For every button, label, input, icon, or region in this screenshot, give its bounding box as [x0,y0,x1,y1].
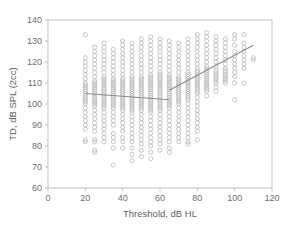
data-point-marker [139,121,143,125]
x-tick-label: 100 [227,193,242,203]
data-point-marker [121,73,125,77]
data-point-marker [121,47,125,51]
data-point-marker [139,154,143,158]
data-point-marker [111,146,115,150]
data-point-marker [139,66,143,70]
data-point-marker [102,41,106,45]
data-point-marker [177,119,181,123]
data-point-marker [233,70,237,74]
data-point-marker [102,58,106,62]
trend-line [169,45,253,90]
data-point-marker [167,119,171,123]
data-point-marker [167,150,171,154]
data-point-marker [93,129,97,133]
data-point-marker [205,56,209,60]
data-point-marker [139,70,143,74]
data-point-marker [102,131,106,135]
data-point-marker [93,45,97,49]
data-point-marker [177,123,181,127]
data-point-marker [130,49,134,53]
data-point-marker [195,33,199,37]
data-point-marker [158,112,162,116]
x-tick-label: 20 [80,193,90,203]
data-point-marker [205,35,209,39]
data-point-marker [93,108,97,112]
data-point-marker [130,70,134,74]
data-point-marker [167,140,171,144]
data-point-marker [83,110,87,114]
data-point-marker [177,62,181,66]
data-point-marker [242,45,246,49]
data-point-marker [102,127,106,131]
data-point-marker [93,121,97,125]
data-point-marker [102,136,106,140]
data-point-marker [83,68,87,72]
data-point-marker [83,56,87,60]
data-point-marker [167,131,171,135]
data-point-marker [214,35,218,39]
data-point-marker [205,43,209,47]
data-point-marker [149,60,153,64]
y-axis-title: TD, dB SPL (2cc) [7,67,18,141]
data-point-marker [195,117,199,121]
data-point-marker [195,112,199,116]
data-point-marker [149,123,153,127]
data-point-marker [233,43,237,47]
data-point-marker [186,119,190,123]
data-point-marker [177,127,181,131]
data-point-marker [83,123,87,127]
data-point-marker [158,62,162,66]
data-point-marker [186,131,190,135]
data-point-marker [186,54,190,58]
data-point-marker [167,47,171,51]
data-point-marker [223,37,227,41]
data-point-marker [130,146,134,150]
data-point-marker [242,66,246,70]
data-point-marker [186,58,190,62]
data-point-marker [121,146,125,150]
data-point-marker [158,121,162,125]
data-point-marker [233,37,237,41]
data-point-marker [111,115,115,119]
data-point-marker [242,58,246,62]
data-point-marker [214,60,218,64]
data-point-marker [139,117,143,121]
data-point-marker [233,81,237,85]
data-point-marker [149,150,153,154]
data-point-marker [83,127,87,131]
data-point-marker [205,52,209,56]
data-point-marker [177,49,181,53]
data-point-marker [93,125,97,129]
data-point-marker [93,62,97,66]
data-point-marker [214,47,218,51]
data-point-marker [102,66,106,70]
data-point-marker [130,62,134,66]
y-tick-label: 130 [27,36,42,46]
data-point-marker [149,52,153,56]
y-tick-label: 60 [32,183,42,193]
data-point-marker [111,73,115,77]
data-point-marker [158,54,162,58]
data-point-marker [121,60,125,64]
data-point-marker [195,129,199,133]
data-point-marker [130,159,134,163]
data-point-marker [83,33,87,37]
data-point-marker [149,64,153,68]
data-point-marker [233,62,237,66]
data-point-marker [158,45,162,49]
data-point-marker [130,127,134,131]
data-point-marker [93,58,97,62]
data-point-marker [111,123,115,127]
data-point-marker [167,56,171,60]
data-point-marker [130,41,134,45]
data-point-marker [214,85,218,89]
data-point-marker [83,73,87,77]
data-point-marker [177,70,181,74]
data-point-marker [111,47,115,51]
data-point-marker [149,115,153,119]
data-point-marker [111,140,115,144]
y-tick-label: 80 [32,141,42,151]
data-point-marker [121,129,125,133]
data-point-marker [111,56,115,60]
data-point-marker [102,54,106,58]
